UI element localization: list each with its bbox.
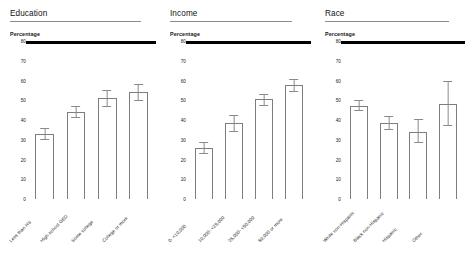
y-tick-label: 20 [21, 157, 26, 162]
y-axis-ticks: 01020304050607080 [12, 41, 29, 199]
x-category-label: 10,000- <25,000 [197, 215, 225, 243]
bar-slot [279, 41, 309, 199]
error-bar [76, 106, 77, 118]
error-bar [107, 90, 108, 106]
y-tick-label: 70 [21, 58, 26, 63]
x-category-label: Less than HS [8, 219, 32, 243]
error-bar [418, 119, 419, 143]
y-tick-label: 60 [21, 78, 26, 83]
y-tick-label: 0 [23, 197, 26, 202]
bar [195, 148, 213, 199]
y-axis-label: Percentage [325, 31, 469, 37]
y-axis-label: Percentage [170, 31, 315, 37]
panel-title: Race [325, 0, 469, 21]
x-category-label: 25,000- <50,000 [227, 215, 255, 243]
y-tick-label: 40 [21, 118, 26, 123]
y-tick-label: 0 [338, 197, 341, 202]
bars-region [189, 41, 309, 199]
x-axis-category-labels: White non-HispanicBlack non-HispanicHisp… [344, 199, 463, 257]
y-axis-ticks: 01020304050607080 [172, 41, 189, 199]
title-underline [10, 21, 141, 22]
y-tick-label: 20 [181, 157, 186, 162]
y-tick-label: 30 [181, 137, 186, 142]
x-axis-category-labels: Less than HSHigh school GEDSome collegeC… [29, 199, 154, 257]
bars-region [29, 41, 154, 199]
panel-education: Education Percentage 01020304050607080 L… [0, 0, 160, 262]
y-tick-label: 10 [181, 177, 186, 182]
x-category-label: Other [411, 231, 423, 243]
y-tick-label: 60 [336, 78, 341, 83]
bar [67, 112, 86, 199]
y-tick-label: 40 [181, 118, 186, 123]
bar-group [29, 41, 154, 199]
bar [285, 85, 303, 199]
bar-slot [433, 41, 463, 199]
panel-title: Education [10, 0, 160, 21]
bar [129, 92, 148, 199]
x-axis-baseline [341, 41, 465, 44]
plot-area: 01020304050607080 [12, 41, 160, 199]
plot-area: 01020304050607080 [172, 41, 315, 199]
bar-slot [29, 41, 60, 199]
y-tick-label: 10 [21, 177, 26, 182]
x-axis-baseline [26, 41, 156, 44]
error-bar [388, 116, 389, 130]
bar-slot [404, 41, 434, 199]
bar-slot [60, 41, 91, 199]
title-underline [170, 21, 292, 22]
y-tick-label: 0 [183, 197, 186, 202]
error-bar [448, 81, 449, 126]
error-bar [44, 128, 45, 140]
x-category-label: Hispanic [382, 227, 399, 244]
y-tick-label: 50 [21, 98, 26, 103]
error-bar [294, 79, 295, 92]
bar-slot [219, 41, 249, 199]
x-category-label: White non-Hispanic [322, 210, 355, 243]
y-tick-label: 30 [336, 137, 341, 142]
bar-slot [189, 41, 219, 199]
y-tick-label: 70 [336, 58, 341, 63]
error-bar [359, 100, 360, 111]
y-tick-label: 60 [181, 78, 186, 83]
bar-slot [344, 41, 374, 199]
x-category-label: High school GED [39, 214, 69, 244]
bar-group [189, 41, 309, 199]
bar [380, 123, 398, 199]
y-axis-ticks: 01020304050607080 [327, 41, 344, 199]
error-bar [264, 94, 265, 105]
y-tick-label: 70 [181, 58, 186, 63]
error-bar [234, 115, 235, 132]
bar-slot [374, 41, 404, 199]
y-tick-label: 50 [181, 98, 186, 103]
y-tick-label: 30 [21, 137, 26, 142]
three-panel-bar-chart-figure: Education Percentage 01020304050607080 L… [0, 0, 469, 262]
y-axis-label: Percentage [10, 31, 160, 37]
y-tick-label: 50 [336, 98, 341, 103]
error-bar [138, 84, 139, 100]
x-category-label: Black non-Hispanic [352, 211, 385, 244]
x-axis-category-labels: 0- <10,00010,000- <25,00025,000- <50,000… [189, 199, 309, 257]
error-bar [204, 142, 205, 154]
bar [350, 106, 368, 199]
bar [255, 99, 273, 199]
x-category-label: College or more [102, 216, 130, 244]
bar-group [344, 41, 463, 199]
x-category-label: 50,000 or more [257, 217, 284, 244]
bar-slot [249, 41, 279, 199]
bar [98, 98, 117, 199]
bar-slot [92, 41, 123, 199]
bar [35, 134, 54, 199]
x-category-label: 0- <10,000 [167, 223, 187, 243]
bar-slot [123, 41, 154, 199]
x-axis-baseline [186, 41, 311, 44]
title-underline [325, 21, 449, 22]
y-tick-label: 20 [336, 157, 341, 162]
plot-area: 01020304050607080 [327, 41, 469, 199]
y-tick-label: 40 [336, 118, 341, 123]
bar [225, 123, 243, 199]
panel-income: Income Percentage 01020304050607080 0- <… [160, 0, 315, 262]
panel-race: Race Percentage 01020304050607080 White … [315, 0, 469, 262]
bars-region [344, 41, 463, 199]
panel-title: Income [170, 0, 315, 21]
y-tick-label: 10 [336, 177, 341, 182]
